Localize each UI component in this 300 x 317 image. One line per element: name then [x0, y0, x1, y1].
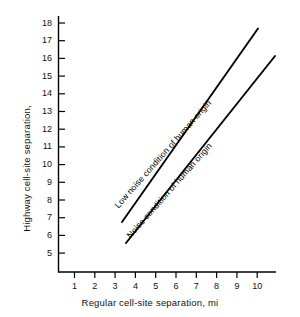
x-tick-label: 5 — [148, 282, 164, 291]
y-tick-label: 18 — [36, 19, 52, 28]
y-axis-label: Highway cell-site separation, — [21, 79, 32, 259]
chart-figure: 18 17 16 15 14 13 12 11 10 9 8 7 6 5 1 2… — [0, 0, 300, 317]
x-axis-label: Regular cell-site separation, mi — [0, 297, 300, 308]
y-tick-label: 15 — [36, 72, 52, 81]
y-tick-label: 17 — [36, 36, 52, 45]
y-tick-label: 10 — [36, 160, 52, 169]
x-tick-label: 7 — [188, 282, 204, 291]
x-tick-label: 9 — [229, 282, 245, 291]
y-tick-label: 16 — [36, 54, 52, 63]
y-tick-label: 5 — [36, 249, 52, 258]
x-axis-ticks — [75, 272, 258, 278]
y-tick-label: 11 — [36, 142, 52, 151]
x-tick-label: 8 — [209, 282, 225, 291]
x-tick-label: 2 — [87, 282, 103, 291]
x-tick-label: 10 — [249, 282, 265, 291]
y-tick-label: 13 — [36, 107, 52, 116]
x-tick-label: 1 — [67, 282, 83, 291]
y-tick-label: 7 — [36, 213, 52, 222]
y-tick-label: 9 — [36, 178, 52, 187]
y-tick-label: 12 — [36, 125, 52, 134]
y-tick-label: 8 — [36, 196, 52, 205]
x-tick-label: 6 — [168, 282, 184, 291]
y-axis-ticks — [59, 23, 66, 253]
y-tick-label: 6 — [36, 231, 52, 240]
y-tick-label: 14 — [36, 89, 52, 98]
x-tick-label: 3 — [107, 282, 123, 291]
x-tick-label: 4 — [127, 282, 143, 291]
